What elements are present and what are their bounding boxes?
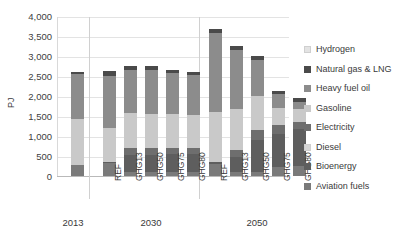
legend-item[interactable]: Aviation fuels [304, 177, 403, 197]
legend-label: Aviation fuels [316, 182, 369, 191]
legend-item[interactable]: Electricity [304, 118, 403, 138]
legend-swatch-icon [304, 144, 311, 151]
x-axis-group-label: 2013 [48, 217, 98, 228]
x-axis-scenario-label: GHG50 [155, 152, 165, 181]
bar-segment [251, 96, 264, 130]
legend-swatch-icon [304, 46, 311, 53]
y-axis-tick-label: 3,000 [6, 52, 52, 62]
bar-segment [71, 74, 84, 119]
chart-legend: HydrogenNatural gas & LNGHeavy fuel oilG… [304, 40, 403, 196]
bar-segment [230, 109, 243, 150]
legend-label: Diesel [316, 143, 341, 152]
legend-label: Bioenergy [316, 162, 357, 171]
bar-segment [71, 119, 84, 165]
x-axis-line [57, 176, 289, 177]
y-axis-tick-label: 1,500 [6, 112, 52, 122]
stacked-bar-chart: PJ 05001,0001,5002,0002,5003,0003,5004,0… [0, 0, 405, 239]
bar-segment [124, 70, 137, 113]
bar-segment [71, 165, 84, 176]
legend-item[interactable]: Natural gas & LNG [304, 60, 403, 80]
bar-segment [166, 73, 179, 114]
legend-swatch-icon [304, 66, 311, 73]
legend-swatch-icon [304, 183, 311, 190]
legend-label: Natural gas & LNG [316, 65, 392, 74]
x-axis-group-label: 2030 [126, 217, 176, 228]
y-axis-tick-label: 2,500 [6, 72, 52, 82]
y-axis-tick-label: 1,000 [6, 132, 52, 142]
legend-swatch-icon [304, 163, 311, 170]
y-axis-tick-label: 4,000 [6, 12, 52, 22]
legend-swatch-icon [304, 85, 311, 92]
gridline [57, 17, 289, 18]
x-axis-scenario-label: REF [219, 164, 229, 181]
x-axis-scenario-label: GHG80 [197, 152, 207, 181]
bar-segment [187, 75, 200, 115]
y-axis-line [57, 17, 58, 177]
legend-swatch-icon [304, 105, 311, 112]
legend-item[interactable]: Heavy fuel oil [304, 79, 403, 99]
bar-2050-ref[interactable] [209, 29, 222, 176]
plot-area [57, 17, 289, 177]
bar-segment [145, 114, 158, 149]
gridline [57, 37, 289, 38]
y-axis-tick-label: 0 [6, 172, 52, 182]
x-axis-scenario-label: GHG50 [261, 152, 271, 181]
legend-label: Gasoline [316, 104, 352, 113]
legend-item[interactable]: Bioenergy [304, 157, 403, 177]
y-axis-tick-label: 2,000 [6, 92, 52, 102]
x-axis-scenario-label: GHG75 [176, 152, 186, 181]
bar-segment [124, 113, 137, 148]
y-axis-tick-labels: 05001,0001,5002,0002,5003,0003,5004,000 [3, 0, 52, 239]
bar-segment [187, 115, 200, 148]
legend-label: Heavy fuel oil [316, 84, 370, 93]
bar-segment [251, 130, 264, 140]
y-axis-tick-label: 3,500 [6, 32, 52, 42]
x-axis-scenario-label: GHG13 [134, 152, 144, 181]
legend-swatch-icon [304, 124, 311, 131]
legend-item[interactable]: Diesel [304, 138, 403, 158]
legend-item[interactable]: Hydrogen [304, 40, 403, 60]
legend-label: Electricity [316, 123, 355, 132]
bar-segment [272, 108, 285, 125]
bar-segment [272, 94, 285, 107]
x-axis-scenario-label: GHG75 [282, 152, 292, 181]
x-axis-scenario-label: GHG13 [240, 152, 250, 181]
bar-segment [103, 76, 116, 128]
bar-segment [230, 50, 243, 109]
x-axis-scenario-label: REF [113, 164, 123, 181]
bar-segment [166, 114, 179, 148]
x-axis-group-label: 2050 [232, 217, 282, 228]
bar-segment [272, 125, 285, 134]
legend-item[interactable]: Gasoline [304, 99, 403, 119]
bar-2013[interactable] [71, 72, 84, 176]
bar-segment [251, 60, 264, 96]
bar-segment [145, 70, 158, 114]
bar-segment [103, 128, 116, 162]
group-separator [89, 17, 90, 199]
legend-label: Hydrogen [316, 45, 355, 54]
bar-segment [209, 33, 222, 111]
y-axis-tick-label: 500 [6, 152, 52, 162]
bar-segment [209, 112, 222, 162]
bar-2030-ref[interactable] [103, 71, 116, 176]
